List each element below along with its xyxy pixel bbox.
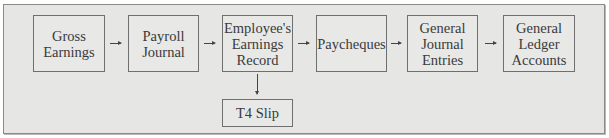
node-employees-earnings-record: Employee's Earnings Record bbox=[222, 15, 293, 72]
node-label-line: Accounts bbox=[512, 52, 567, 68]
node-label-line: Employee's bbox=[224, 20, 291, 36]
node-label-line: General bbox=[512, 20, 567, 36]
node-paycheques: Paycheques bbox=[316, 15, 387, 72]
node-general-journal-entries: General Journal Entries bbox=[407, 15, 478, 72]
arrow-right-icon bbox=[204, 43, 215, 44]
node-label-line: Payroll bbox=[142, 28, 185, 44]
node-gross-earnings: Gross Earnings bbox=[33, 15, 105, 72]
node-label-line: Ledger bbox=[512, 36, 567, 52]
arrow-right-icon bbox=[298, 43, 309, 44]
node-payroll-journal: Payroll Journal bbox=[128, 15, 199, 72]
arrow-right-icon bbox=[485, 43, 496, 44]
node-label-line: Journal bbox=[142, 44, 185, 60]
node-label-line: Earnings bbox=[43, 44, 95, 60]
node-t4-slip: T4 Slip bbox=[222, 99, 293, 127]
arrow-right-icon bbox=[110, 43, 121, 44]
node-label-line: Earnings bbox=[224, 36, 291, 52]
node-label-line: General bbox=[420, 20, 466, 36]
node-label-line: Entries bbox=[420, 52, 466, 68]
arrow-down-icon bbox=[257, 74, 258, 94]
arrow-right-icon bbox=[391, 43, 401, 44]
node-label-line: T4 Slip bbox=[236, 105, 279, 121]
node-label-line: Paycheques bbox=[317, 36, 385, 52]
node-label-line: Journal bbox=[420, 36, 466, 52]
node-label-line: Record bbox=[224, 52, 291, 68]
node-general-ledger-accounts: General Ledger Accounts bbox=[503, 15, 575, 72]
node-label-line: Gross bbox=[43, 28, 95, 44]
